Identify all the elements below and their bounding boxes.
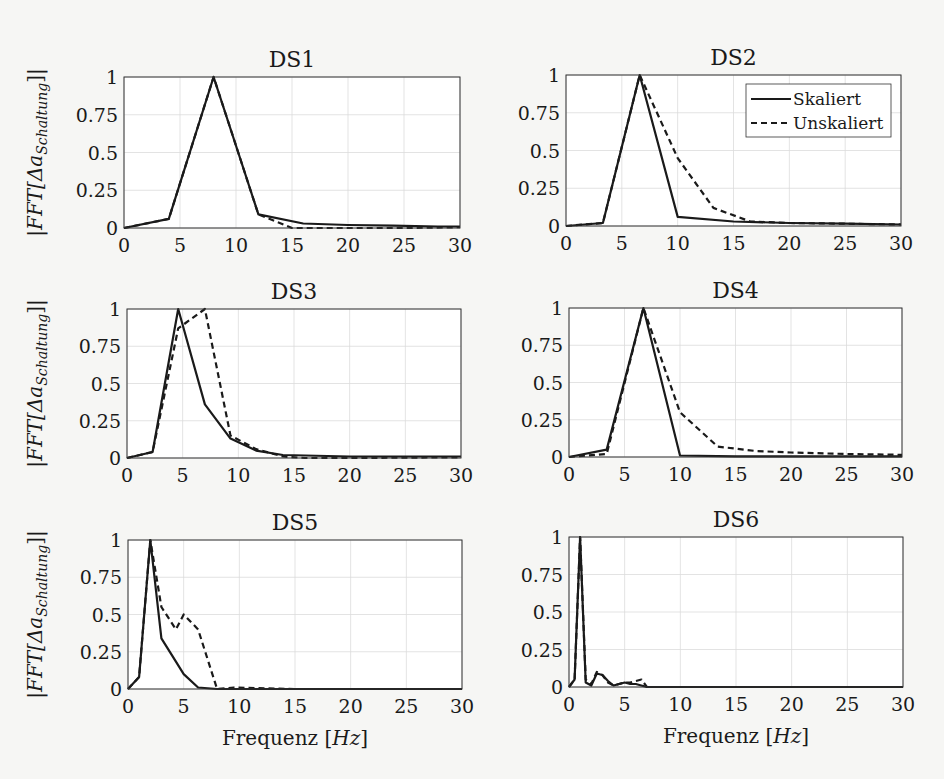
x-tick-label: 30: [449, 464, 473, 486]
y-axis-label: |FFT[ΔaSchaltung]|: [23, 68, 50, 236]
x-tick-label: 0: [563, 693, 575, 715]
y-tick-label: 0.25: [518, 177, 560, 199]
y-tick-label: 0.5: [533, 372, 563, 394]
x-tick-label: 25: [833, 232, 857, 254]
x-tick-label: 5: [618, 463, 630, 485]
y-tick-label: 1: [551, 297, 563, 319]
x-tick-label: 10: [668, 463, 692, 485]
x-tick-label: 0: [121, 464, 133, 486]
x-tick-label: 5: [619, 693, 631, 715]
y-axis-label: |FFT[ΔaSchaltung]|: [23, 530, 50, 698]
y-tick-label: 0.25: [521, 409, 563, 431]
subplot-title: DS5: [272, 510, 319, 535]
y-tick-label: 1: [110, 529, 122, 551]
x-tick-label: 5: [174, 234, 186, 256]
x-tick-label: 5: [616, 232, 628, 254]
x-tick-label: 30: [450, 695, 474, 717]
x-tick-label: 0: [560, 232, 572, 254]
y-tick-label: 0.75: [76, 104, 118, 126]
y-tick-label: 0.25: [521, 639, 563, 661]
legend-label: Skaliert: [793, 89, 861, 109]
x-tick-label: 20: [779, 463, 803, 485]
subplot-title: DS6: [713, 507, 760, 532]
y-tick-label: 0.5: [530, 140, 560, 162]
subplot-ds3: 05101520253000.250.50.751DS3|FFT[ΔaSchal…: [23, 279, 473, 486]
x-tick-label: 10: [668, 693, 692, 715]
y-tick-label: 0.25: [76, 179, 118, 201]
y-axis-label: |FFT[ΔaSchaltung]|: [23, 299, 50, 467]
y-tick-label: 0.25: [80, 641, 122, 663]
x-tick-label: 20: [780, 693, 804, 715]
x-tick-label: 30: [448, 234, 472, 256]
x-tick-label: 15: [724, 693, 748, 715]
x-tick-label: 30: [891, 693, 915, 715]
subplot-ds6: 05101520253000.250.50.751DS6Frequenz [Hz…: [521, 507, 915, 748]
y-tick-label: 0.75: [521, 334, 563, 356]
x-tick-label: 25: [394, 695, 418, 717]
y-tick-label: 0.75: [79, 335, 121, 357]
y-tick-label: 0: [548, 215, 560, 237]
y-tick-label: 0.5: [91, 373, 121, 395]
x-tick-label: 20: [339, 695, 363, 717]
subplot-ds1: 05101520253000.250.50.751DS1|FFT[ΔaSchal…: [23, 47, 472, 256]
subplot-ds4: 05101520253000.250.50.751DS4: [521, 278, 914, 485]
x-tick-label: 5: [178, 695, 190, 717]
y-tick-label: 1: [106, 66, 118, 88]
subplot-ds2: 05101520253000.250.50.751DS2SkaliertUnsk…: [518, 45, 913, 254]
y-tick-label: 0: [551, 676, 563, 698]
x-tick-label: 15: [280, 234, 304, 256]
x-tick-label: 10: [224, 234, 248, 256]
subplot-title: DS1: [269, 47, 316, 72]
y-tick-label: 0: [110, 678, 122, 700]
x-tick-label: 25: [835, 693, 859, 715]
y-tick-label: 0: [109, 447, 121, 469]
x-tick-label: 15: [723, 463, 747, 485]
x-axis-label: Frequenz [Hz]: [222, 726, 368, 750]
y-tick-label: 0.75: [518, 102, 560, 124]
x-tick-label: 15: [282, 464, 306, 486]
x-tick-label: 5: [177, 464, 189, 486]
subplot-title: DS3: [271, 279, 318, 304]
y-tick-label: 0.75: [521, 564, 563, 586]
x-tick-label: 30: [890, 463, 914, 485]
x-tick-label: 10: [226, 464, 250, 486]
subplot-ds5: 05101520253000.250.50.751DS5|FFT[ΔaSchal…: [23, 510, 474, 750]
x-tick-label: 0: [122, 695, 134, 717]
legend-label: Unskaliert: [793, 113, 883, 133]
y-tick-label: 1: [109, 298, 121, 320]
x-tick-label: 20: [338, 464, 362, 486]
x-tick-label: 15: [721, 232, 745, 254]
x-tick-label: 10: [666, 232, 690, 254]
y-tick-label: 1: [551, 526, 563, 548]
legend: SkaliertUnskaliert: [746, 84, 891, 137]
x-tick-label: 25: [393, 464, 417, 486]
y-tick-label: 0.5: [88, 142, 118, 164]
y-tick-label: 0: [106, 217, 118, 239]
y-tick-label: 0: [551, 446, 563, 468]
x-tick-label: 20: [336, 234, 360, 256]
y-tick-label: 0.5: [533, 601, 563, 623]
x-axis-label: Frequenz [Hz]: [663, 724, 809, 748]
x-tick-label: 30: [889, 232, 913, 254]
x-tick-label: 25: [392, 234, 416, 256]
x-tick-label: 10: [227, 695, 251, 717]
y-tick-label: 0.25: [79, 410, 121, 432]
x-tick-label: 0: [118, 234, 130, 256]
x-tick-label: 15: [283, 695, 307, 717]
x-tick-label: 0: [563, 463, 575, 485]
x-tick-label: 20: [777, 232, 801, 254]
y-tick-label: 0.5: [92, 604, 122, 626]
x-tick-label: 25: [834, 463, 858, 485]
subplot-title: DS2: [710, 45, 757, 70]
y-tick-label: 1: [548, 64, 560, 86]
y-tick-label: 0.75: [80, 566, 122, 588]
figure: 05101520253000.250.50.751DS1|FFT[ΔaSchal…: [0, 0, 944, 779]
subplot-title: DS4: [712, 278, 759, 303]
